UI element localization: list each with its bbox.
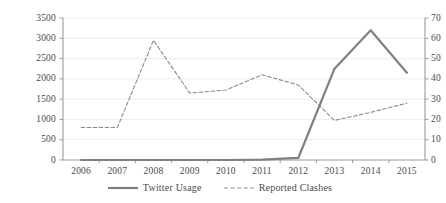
y-axis-right-tick-label: 10	[431, 134, 446, 144]
series-lines	[81, 30, 407, 160]
legend-item-twitter-usage: Twitter Usage	[108, 182, 202, 193]
y-axis-right-tick-label: 20	[431, 114, 446, 124]
legend-label-twitter-usage: Twitter Usage	[143, 182, 202, 193]
y-axis-right-tick-label: 70	[431, 13, 446, 23]
y-axis-left-tick-label: 2500	[0, 53, 56, 63]
y-axis-right-tick-label: 40	[431, 73, 446, 83]
y-axis-left-tick-label: 1000	[0, 114, 56, 124]
legend-swatch-dashed-icon	[224, 184, 254, 192]
y-axis-left-tick-label: 0	[0, 155, 56, 165]
y-axis-left-tick-label: 3500	[0, 13, 56, 23]
y-axis-right-tick-label: 0	[431, 155, 446, 165]
axis-lines	[60, 18, 429, 163]
chart-legend: Twitter Usage Reported Clashes	[0, 182, 440, 193]
y-axis-right-tick-label: 50	[431, 53, 446, 63]
legend-item-reported-clashes: Reported Clashes	[224, 182, 332, 193]
y-axis-right-tick-label: 30	[431, 94, 446, 104]
x-axis-tick-label: 2015	[385, 166, 429, 176]
y-axis-left-tick-label: 500	[0, 134, 56, 144]
series-line-twitter-usage	[81, 30, 407, 160]
y-axis-left-tick-label: 1500	[0, 94, 56, 104]
y-axis-right-tick-label: 60	[431, 33, 446, 43]
y-axis-left-tick-label: 3000	[0, 33, 56, 43]
gridlines	[63, 18, 425, 140]
y-axis-left-tick-label: 2000	[0, 73, 56, 83]
legend-label-reported-clashes: Reported Clashes	[259, 182, 332, 193]
legend-swatch-solid-icon	[108, 184, 138, 192]
series-line-reported-clashes	[81, 40, 407, 127]
